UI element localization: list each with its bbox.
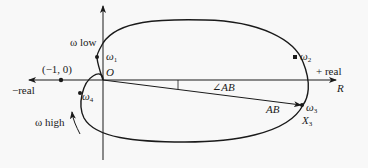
w1-symbol: ω	[106, 50, 114, 62]
w2-label: ω2	[300, 51, 311, 64]
omega-high-label: ω high	[35, 117, 65, 128]
nyquist-curve	[81, 20, 308, 142]
point-w1	[95, 55, 99, 59]
w4-sub: 4	[90, 96, 94, 104]
w2-sub: 2	[308, 56, 312, 64]
w3-symbol: ω	[306, 101, 314, 113]
w1-label: ω1	[106, 51, 117, 64]
negative-real-label: −real	[12, 85, 35, 96]
real-axis-name: R	[337, 83, 344, 94]
x3-label: X3	[302, 115, 312, 128]
w1-sub: 1	[114, 56, 118, 64]
x3-symbol: X	[302, 114, 309, 126]
origin-label: O	[106, 67, 114, 78]
magnitude-label: AB	[266, 104, 279, 115]
minus-one-label: (−1, 0)	[42, 64, 72, 75]
w3-sub: 3	[314, 107, 318, 115]
omega-high-arrow	[72, 112, 80, 134]
point-w2	[293, 55, 297, 59]
x3-sub: 3	[309, 120, 313, 128]
ab-vector	[103, 80, 301, 105]
positive-real-label: + real	[316, 66, 341, 77]
nyquist-diagram: ω low ω1 ω2 (−1, 0) O + real R −real ∠AB…	[0, 0, 368, 168]
w4-symbol: ω	[82, 90, 90, 102]
angle-label: ∠AB	[212, 82, 235, 93]
point-w3	[300, 103, 304, 107]
w4-label: ω4	[82, 91, 93, 104]
point-minus-one	[59, 78, 63, 82]
diagram-graphics	[0, 0, 368, 168]
omega-low-label: ω low	[70, 37, 97, 48]
w2-symbol: ω	[300, 50, 308, 62]
